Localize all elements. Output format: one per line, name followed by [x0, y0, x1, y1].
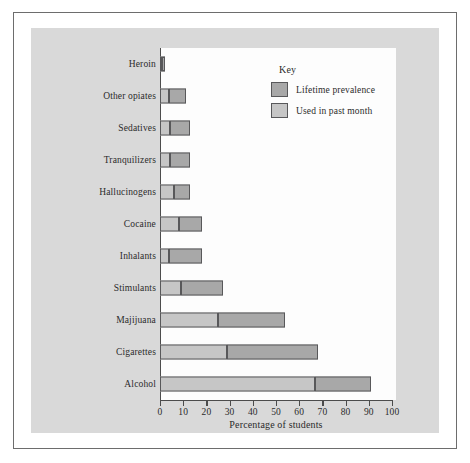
x-axis-tick-label: 70: [318, 407, 328, 417]
bar-group: [160, 281, 223, 296]
figure-root: HeroinOther opiatesSedativesTranquilizer…: [0, 0, 470, 463]
x-axis-tick: [253, 400, 254, 406]
category-label: Stimulants: [36, 283, 156, 293]
x-axis-tick-label: 10: [178, 407, 188, 417]
bar-group: [160, 89, 186, 104]
category-axis-labels: HeroinOther opiatesSedativesTranquilizer…: [31, 48, 156, 400]
legend-label-past-month: Used in past month: [296, 106, 372, 116]
legend-swatch-icon-past-month: [271, 103, 288, 118]
bar-group: [160, 217, 202, 232]
bar-segment-lifetime: [181, 281, 223, 296]
x-axis-tick-label: 100: [385, 407, 400, 417]
legend-item-used-in-past-month: Used in past month: [271, 103, 421, 118]
bar-segment-lifetime: [174, 185, 190, 200]
bar-group: [160, 345, 318, 360]
chart-panel: HeroinOther opiatesSedativesTranquilizer…: [31, 28, 439, 433]
x-axis-tick-label: 60: [294, 407, 304, 417]
category-label: Hallucinogens: [36, 187, 156, 197]
x-axis-tick: [160, 400, 161, 406]
category-label: Sedatives: [36, 123, 156, 133]
bar-segment-lifetime: [170, 153, 190, 168]
x-axis-tick-label: 80: [341, 407, 351, 417]
x-axis-tick-label: 50: [271, 407, 281, 417]
bar-segment-past-month: [160, 281, 181, 296]
bar-group: [160, 313, 285, 328]
bar-group: [160, 249, 202, 264]
x-axis-tick: [206, 400, 207, 406]
legend-title: Key: [279, 64, 421, 75]
bar-segment-past-month: [160, 153, 170, 168]
bar-group: [160, 153, 190, 168]
category-label: Cigarettes: [36, 347, 156, 357]
bar-segment-past-month: [160, 249, 169, 264]
x-axis-tick: [369, 400, 370, 406]
bar-group: [160, 377, 371, 392]
category-label: Cocaine: [36, 219, 156, 229]
x-axis-tick: [183, 400, 184, 406]
bar-segment-lifetime: [315, 377, 371, 392]
bar-segment-lifetime: [218, 313, 285, 328]
bar-segment-past-month: [160, 89, 169, 104]
bar-group: [160, 57, 165, 72]
x-axis-tick: [322, 400, 323, 406]
bar-segment-lifetime: [227, 345, 317, 360]
x-axis-tick-label: 40: [248, 407, 258, 417]
bar-segment-lifetime: [169, 249, 201, 264]
x-axis-tick: [392, 400, 393, 406]
legend: Key Lifetime prevalence Used in past mon…: [271, 64, 421, 124]
category-label: Majijuana: [36, 315, 156, 325]
x-axis-tick-label: 0: [158, 407, 163, 417]
bar-segment-past-month: [160, 377, 315, 392]
x-axis-tick: [346, 400, 347, 406]
category-label: Heroin: [36, 59, 156, 69]
bar-segment-lifetime: [162, 57, 164, 72]
x-axis-tick: [276, 400, 277, 406]
legend-item-lifetime-prevalence: Lifetime prevalence: [271, 82, 421, 97]
bar-group: [160, 121, 190, 136]
bar-segment-lifetime: [170, 121, 190, 136]
legend-swatch-icon-lifetime: [271, 82, 288, 97]
x-axis-tick: [299, 400, 300, 406]
x-axis-tick-label: 30: [225, 407, 235, 417]
category-label: Alcohol: [36, 379, 156, 389]
bar-segment-past-month: [160, 57, 162, 72]
bar-segment-past-month: [160, 185, 174, 200]
x-axis-tick-label: 20: [202, 407, 212, 417]
x-axis-tick-label: 90: [364, 407, 374, 417]
x-axis-title: Percentage of students: [160, 419, 392, 430]
category-label: Other opiates: [36, 91, 156, 101]
bar-segment-past-month: [160, 345, 227, 360]
bar-segment-past-month: [160, 313, 218, 328]
category-label: Tranquilizers: [36, 155, 156, 165]
bar-segment-lifetime: [179, 217, 202, 232]
x-axis-tick: [230, 400, 231, 406]
bar-segment-lifetime: [169, 89, 185, 104]
legend-label-lifetime: Lifetime prevalence: [296, 85, 375, 95]
bar-segment-past-month: [160, 121, 170, 136]
bar-segment-past-month: [160, 217, 179, 232]
category-label: Inhalants: [36, 251, 156, 261]
bar-group: [160, 185, 190, 200]
